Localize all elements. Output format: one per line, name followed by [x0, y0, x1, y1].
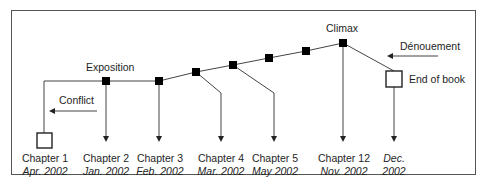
plot-markers — [102, 39, 347, 85]
chapter-name: Chapter 2 — [77, 152, 135, 165]
chapter-name: Chapter 12 — [312, 152, 376, 165]
label-denouement: Dénouement — [400, 40, 460, 53]
chapter-label-12: Chapter 12 Nov. 2002 — [312, 152, 376, 178]
chapter-date: Feb. 2002 — [131, 165, 189, 178]
label-exposition: Exposition — [86, 61, 134, 74]
label-climax: Climax — [326, 22, 358, 35]
plot-line — [44, 43, 394, 133]
chapter-date: Nov. 2002 — [312, 165, 376, 178]
branch-chapter-4 — [196, 72, 221, 139]
marker-exposition — [102, 77, 110, 85]
marker — [229, 61, 237, 69]
label-conflict: Conflict — [59, 94, 94, 107]
date-line-1: Dec. — [372, 152, 416, 165]
marker — [155, 77, 163, 85]
chapter-label-4: Chapter 4 Mar. 2002 — [191, 152, 251, 178]
chapter-label-5: Chapter 5 May 2002 — [246, 152, 304, 178]
marker — [302, 47, 310, 55]
chapter-date: May 2002 — [246, 165, 304, 178]
label-end-of-book: End of book — [409, 73, 465, 86]
chapter-date: Jan. 2002 — [77, 165, 135, 178]
chapter-label-3: Chapter 3 Feb. 2002 — [131, 152, 189, 178]
chapter-name: Chapter 5 — [246, 152, 304, 165]
chapter-label-dec: Dec. 2002 — [372, 152, 416, 178]
chapter-name: Chapter 4 — [191, 152, 251, 165]
chapter-name: Chapter 3 — [131, 152, 189, 165]
chapter-label-1: Chapter 1 Apr. 2002 — [16, 152, 74, 178]
start-box — [37, 133, 52, 148]
marker — [192, 68, 200, 76]
chapter-label-2: Chapter 2 Jan. 2002 — [77, 152, 135, 178]
end-of-book-box — [386, 71, 402, 87]
chapter-date: Apr. 2002 — [16, 165, 74, 178]
chapter-name: Chapter 1 — [16, 152, 74, 165]
marker — [265, 54, 273, 62]
date-line-2: 2002 — [372, 165, 416, 178]
branch-chapter-5 — [233, 65, 274, 139]
diagram-frame — [12, 11, 476, 175]
marker-climax — [339, 39, 347, 47]
chapter-date: Mar. 2002 — [191, 165, 251, 178]
